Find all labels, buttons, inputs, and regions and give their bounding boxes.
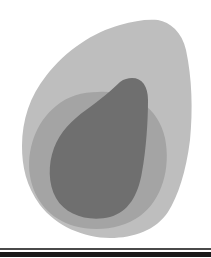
nested-regions-diagram — [0, 0, 211, 258]
thick-rule — [0, 252, 211, 257]
thin-rule — [0, 248, 211, 250]
